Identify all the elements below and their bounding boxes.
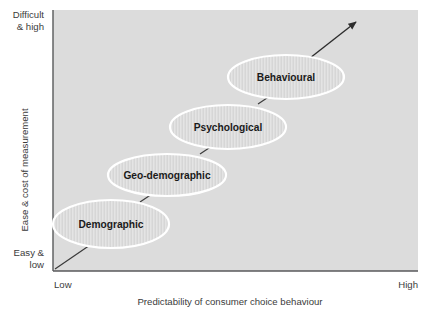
- x-axis-title: Predictability of consumer choice behavi…: [137, 296, 323, 307]
- y-axis-top-label-line2: & high: [17, 21, 44, 32]
- x-axis-left-label: Low: [54, 279, 72, 290]
- behavioural-label: Behavioural: [257, 72, 315, 83]
- bubble-demographic[interactable]: Demographic: [53, 200, 169, 248]
- y-axis-top-label-line1: Difficult: [13, 9, 45, 20]
- y-axis-title: Ease & cost of measurement: [19, 108, 30, 232]
- psychological-label: Psychological: [194, 122, 263, 133]
- diagram-canvas: Demographic Geo-demographic Psychologica…: [0, 0, 426, 315]
- y-axis-bottom-label-line1: Easy &: [14, 247, 45, 258]
- demographic-label: Demographic: [78, 219, 143, 230]
- bubble-geo-demographic[interactable]: Geo-demographic: [108, 154, 226, 196]
- bubble-psychological[interactable]: Psychological: [170, 105, 286, 149]
- bubble-behavioural[interactable]: Behavioural: [228, 55, 344, 99]
- x-axis-right-label: High: [398, 279, 418, 290]
- y-axis-bottom-label-line2: low: [30, 259, 44, 270]
- segmentation-ladder-figure: Demographic Geo-demographic Psychologica…: [0, 0, 426, 315]
- geo-demographic-label: Geo-demographic: [123, 170, 211, 181]
